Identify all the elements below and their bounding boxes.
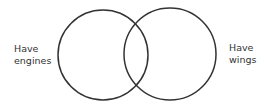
set-label-have-wings: Have wings: [229, 42, 256, 66]
label-line: Have: [14, 43, 51, 55]
label-line: wings: [229, 54, 256, 66]
set-circle-have-engines: [58, 10, 148, 100]
label-line: Have: [229, 42, 256, 54]
set-label-have-engines: Have engines: [14, 43, 51, 67]
label-line: engines: [14, 55, 51, 67]
set-circle-have-wings: [124, 8, 216, 100]
